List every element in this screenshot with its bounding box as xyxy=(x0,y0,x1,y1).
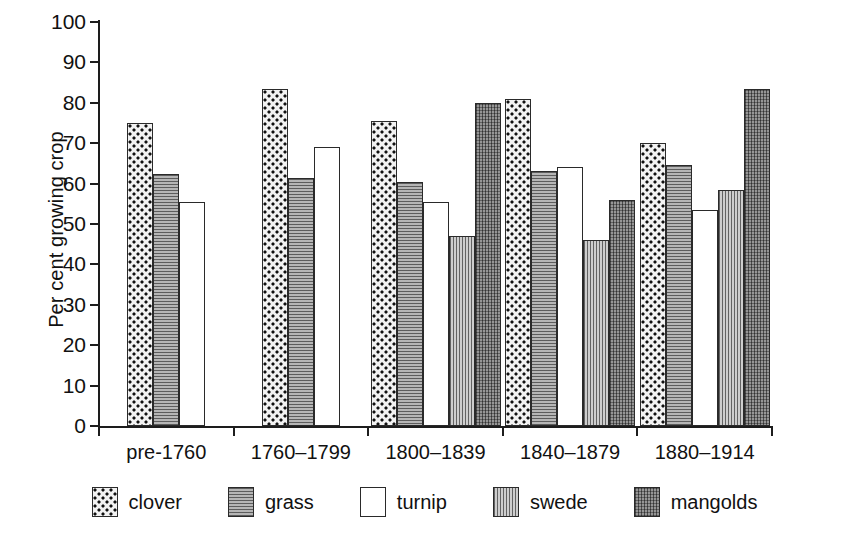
legend-label: swede xyxy=(530,491,588,514)
y-tick-mark xyxy=(90,344,99,346)
y-tick-mark xyxy=(90,304,99,306)
legend-swatch-swede-icon xyxy=(493,487,519,517)
y-tick-label: 10 xyxy=(0,374,86,398)
y-tick-mark xyxy=(90,223,99,225)
legend-swatch-clover-icon xyxy=(92,487,118,517)
bar-turnip-1840-1879 xyxy=(557,167,583,426)
bar-clover-1760-1799 xyxy=(262,89,288,426)
x-tick-mark xyxy=(367,427,369,436)
y-tick-mark xyxy=(90,385,99,387)
legend-label: grass xyxy=(265,491,314,514)
legend-label: clover xyxy=(129,491,182,514)
y-tick-label: 70 xyxy=(0,131,86,155)
bar-clover-1880-1914 xyxy=(640,143,666,426)
chart-legend: clovergrassturnipswedemangolds xyxy=(0,487,849,517)
bar-clover-pre-1760 xyxy=(127,123,153,426)
bar-mangolds-1800-1839 xyxy=(475,103,501,426)
x-tick-mark xyxy=(771,427,773,436)
legend-item-mangolds[interactable]: mangolds xyxy=(634,487,758,517)
bar-clover-1840-1879 xyxy=(505,99,531,426)
legend-item-turnip[interactable]: turnip xyxy=(360,487,447,517)
bar-chart: Per cent growing crop 100908070605040302… xyxy=(0,0,849,534)
legend-label: mangolds xyxy=(671,491,758,514)
x-axis-line xyxy=(98,426,773,428)
legend-swatch-grass-icon xyxy=(228,487,254,517)
y-tick-mark xyxy=(90,102,99,104)
x-axis-group-label: 1880–1914 xyxy=(655,441,755,464)
bar-turnip-1760-1799 xyxy=(314,147,340,426)
bar-turnip-pre-1760 xyxy=(179,202,205,426)
y-tick-label: 100 xyxy=(0,10,86,34)
y-tick-mark xyxy=(90,21,99,23)
bar-grass-1880-1914 xyxy=(666,165,692,426)
y-tick-label: 40 xyxy=(0,252,86,276)
bar-turnip-1800-1839 xyxy=(423,202,449,426)
legend-swatch-turnip-icon xyxy=(360,487,386,517)
y-tick-label: 80 xyxy=(0,91,86,115)
bar-clover-1800-1839 xyxy=(371,121,397,426)
y-tick-label: 20 xyxy=(0,333,86,357)
y-tick-label: 50 xyxy=(0,212,86,236)
y-tick-label: 0 xyxy=(0,414,86,438)
legend-label: turnip xyxy=(397,491,447,514)
bar-swede-1880-1914 xyxy=(718,190,744,426)
x-tick-mark xyxy=(233,427,235,436)
legend-item-grass[interactable]: grass xyxy=(228,487,314,517)
legend-item-swede[interactable]: swede xyxy=(493,487,588,517)
x-axis-group-label: 1760–1799 xyxy=(251,441,351,464)
bar-grass-1760-1799 xyxy=(288,178,314,426)
y-tick-mark xyxy=(90,142,99,144)
y-tick-label: 90 xyxy=(0,50,86,74)
bar-swede-1840-1879 xyxy=(583,240,609,426)
y-tick-label: 60 xyxy=(0,172,86,196)
legend-item-clover[interactable]: clover xyxy=(92,487,182,517)
bar-mangolds-1840-1879 xyxy=(609,200,635,426)
bar-turnip-1880-1914 xyxy=(692,210,718,426)
bar-grass-pre-1760 xyxy=(153,174,179,427)
x-tick-mark xyxy=(98,427,100,436)
plot-area xyxy=(99,22,772,426)
bar-mangolds-1880-1914 xyxy=(744,89,770,426)
x-tick-mark xyxy=(636,427,638,436)
y-tick-label: 30 xyxy=(0,293,86,317)
bar-swede-1800-1839 xyxy=(449,236,475,426)
bar-grass-1840-1879 xyxy=(531,171,557,426)
y-tick-mark xyxy=(90,183,99,185)
x-axis-group-label: 1840–1879 xyxy=(520,441,620,464)
x-tick-mark xyxy=(502,427,504,436)
x-axis-group-label: pre-1760 xyxy=(126,441,206,464)
legend-swatch-mangolds-icon xyxy=(634,487,660,517)
x-axis-group-label: 1800–1839 xyxy=(385,441,485,464)
y-tick-mark xyxy=(90,61,99,63)
y-tick-mark xyxy=(90,263,99,265)
bar-grass-1800-1839 xyxy=(397,182,423,426)
